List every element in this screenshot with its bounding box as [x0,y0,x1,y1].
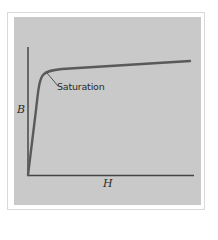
x-axis-label: H [103,177,113,190]
magnetization-curve [28,61,190,175]
y-axis-label: B [17,103,25,116]
saturation-annotation: Saturation [57,81,105,92]
